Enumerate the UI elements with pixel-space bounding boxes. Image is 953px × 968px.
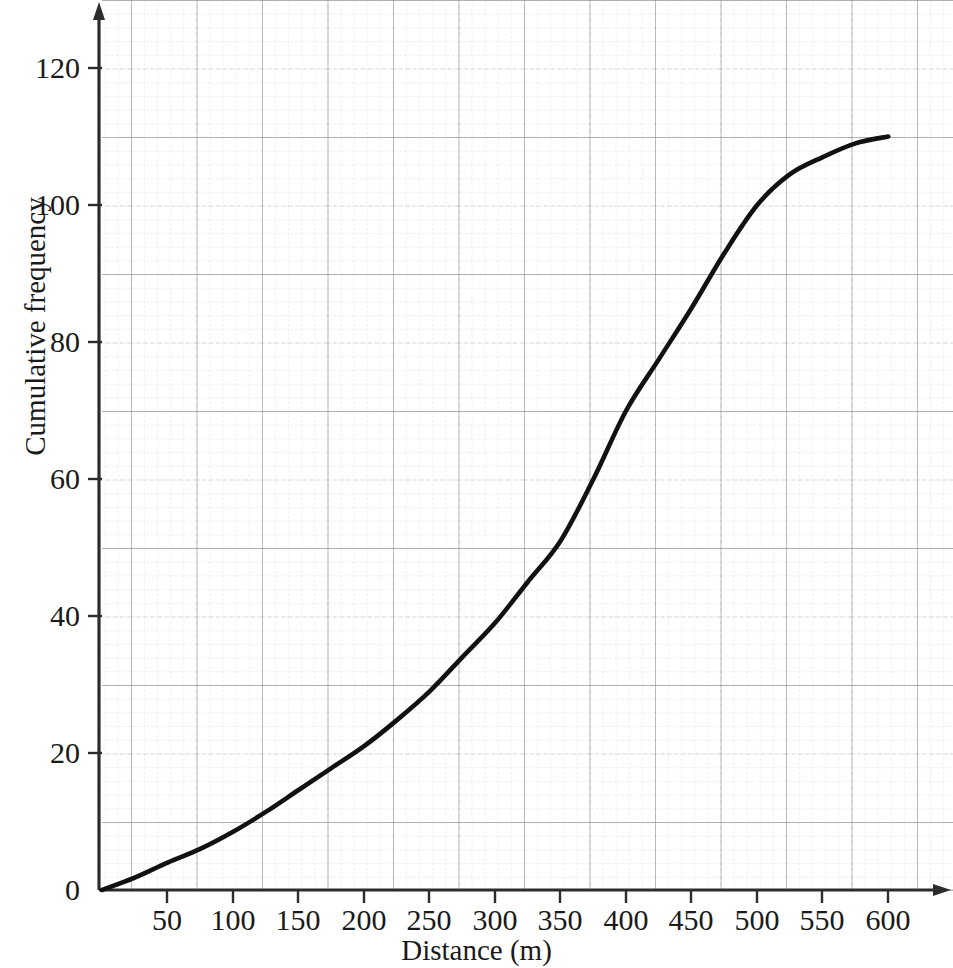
x-tick-label-250: 250 [407, 905, 452, 935]
x-tick-label-600: 600 [866, 905, 911, 935]
x-tick-label-200: 200 [342, 905, 387, 935]
major-gridlines [102, 0, 953, 890]
y-axis-title: Cumulative frequency [19, 162, 52, 492]
x-axis-title: Distance (m) [0, 934, 953, 967]
x-tick-label-150: 150 [276, 905, 321, 935]
y-tick-label-40: 40 [16, 601, 80, 631]
y-tick-label-20: 20 [16, 738, 80, 768]
x-tick-label-350: 350 [538, 905, 583, 935]
y-tick-label-0: 0 [16, 875, 80, 905]
grid-layer [102, 0, 953, 890]
x-tick-label-550: 550 [800, 905, 845, 935]
x-tick-label-500: 500 [735, 905, 780, 935]
plot-area [0, 0, 953, 968]
x-tick-label-450: 450 [669, 905, 714, 935]
x-tick-label-100: 100 [211, 905, 256, 935]
y-tick-label-120: 120 [16, 53, 80, 83]
x-tick-label-300: 300 [473, 905, 518, 935]
x-tick-label-400: 400 [604, 905, 649, 935]
x-tick-label-50: 50 [152, 905, 182, 935]
cumulative-frequency-chart: 120 100 80 60 40 20 0 50 100 150 200 250… [0, 0, 953, 968]
